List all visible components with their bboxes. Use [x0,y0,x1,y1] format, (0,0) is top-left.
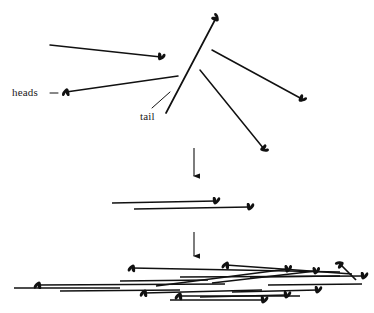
leader-line-tail [152,92,170,108]
arrow-c7 [38,284,225,285]
stage-1-scattered-arrows [50,18,302,149]
arrow-a4 [212,50,302,99]
arrow-b2 [134,207,250,209]
arrow-c17 [268,284,362,285]
tail-label: tail [140,110,155,122]
heads-label: heads [12,86,38,98]
arrow-c14 [250,276,340,277]
stage-3-aligned-arrows [14,264,364,300]
arrow-a1 [50,45,161,57]
arrow-a3-tail [166,18,216,113]
stage-2-partial-arrows [112,201,250,209]
arrow-c3 [340,264,356,280]
arrow-a2-heads [66,76,178,92]
arrow-a5 [200,70,264,149]
arrow-c13 [120,280,208,281]
arrow-b1 [112,201,216,203]
diagram-canvas-container: heads tail [0,0,374,313]
arrow-c16 [60,290,180,291]
arrow-diagram-svg [0,0,374,313]
